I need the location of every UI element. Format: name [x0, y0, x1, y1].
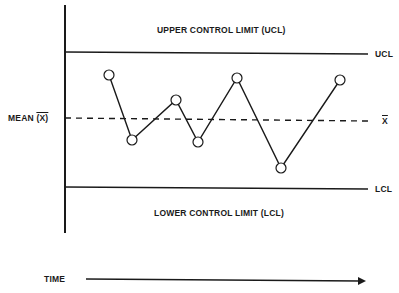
ucl-region-label: UPPER CONTROL LIMIT (UCL) [157, 25, 286, 35]
lcl-tag: LCL [375, 184, 392, 194]
mean-line [65, 118, 368, 121]
control-chart [0, 0, 399, 293]
lcl-region-label: LOWER CONTROL LIMIT (LCL) [154, 208, 284, 218]
data-points [104, 70, 345, 173]
ucl-line [65, 52, 368, 54]
mean-label-symbol: (X) [36, 113, 48, 123]
time-arrow-head [358, 277, 366, 285]
mean-label-prefix: MEAN [8, 113, 36, 123]
mean-axis-label: MEAN (X) [8, 113, 48, 123]
ucl-tag: UCL [375, 49, 393, 59]
time-arrow-shaft [86, 279, 360, 281]
mean-tag: X [382, 116, 388, 126]
data-series [109, 75, 340, 168]
time-label: TIME [44, 274, 65, 284]
lcl-line [65, 187, 368, 189]
